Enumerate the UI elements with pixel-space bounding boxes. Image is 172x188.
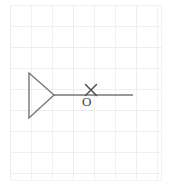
diagram-canvas: O <box>0 0 172 188</box>
grid-area-background <box>10 5 162 181</box>
figure-svg: O <box>0 0 172 188</box>
grid-layer <box>10 5 162 181</box>
point-label-o: O <box>82 94 91 109</box>
